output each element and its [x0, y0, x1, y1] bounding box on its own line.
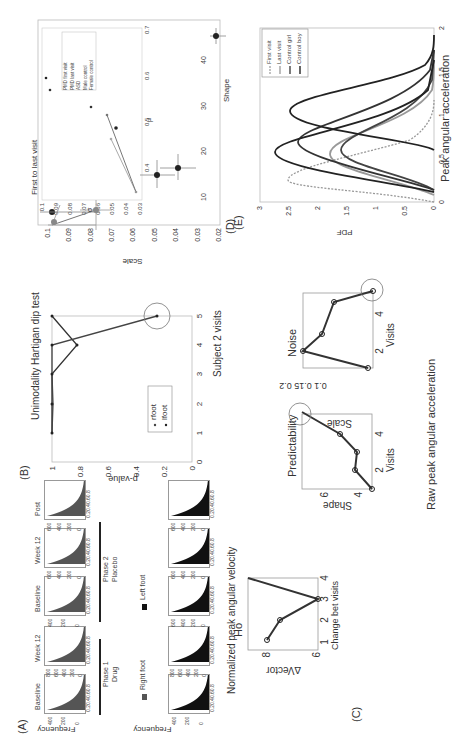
histogram-xticks: 0.20.40.60.8 [85, 490, 91, 518]
svg-text:0.1: 0.1 [39, 202, 45, 211]
phase2-name: Phase 2 [102, 556, 109, 582]
svg-text:1.5: 1.5 [343, 206, 350, 216]
histogram-title: Baseline [34, 585, 41, 612]
histogram-title: Week 12 [34, 537, 41, 565]
noise-ylabel: Scale [327, 418, 352, 429]
svg-text:1: 1 [372, 206, 379, 210]
svg-text:0.03: 0.03 [137, 202, 143, 214]
histogram-yticks: 4002000 [168, 717, 208, 725]
histogram-yticks: 6004002000 [168, 571, 208, 579]
svg-text:2: 2 [374, 348, 385, 354]
svg-text:4: 4 [353, 492, 364, 498]
svg-text:1: 1 [48, 465, 57, 470]
svg-text:6: 6 [319, 492, 330, 498]
histogram [44, 626, 86, 666]
histogram [168, 674, 210, 714]
panel-e-xlabel: Peak angular acceleration [439, 55, 451, 182]
svg-text:2: 2 [374, 467, 385, 473]
legend-control-girl: Control girl [284, 33, 294, 64]
phase2-bar [99, 522, 101, 622]
panel-d-chart: 0.02 0.03 0.04 0.05 0.06 0.07 0.08 0.09 … [0, 0, 230, 250]
histogram-title: Baseline [34, 683, 41, 710]
panel-b-legend-lfoot: lfoot [160, 405, 169, 420]
svg-text:0: 0 [438, 200, 445, 204]
histogram-xticks: 0.20.40.60.8 [85, 684, 91, 712]
svg-text:0.08: 0.08 [67, 202, 73, 214]
histogram-yticks: 6004002000 [44, 571, 84, 579]
panel-b-ylabel: p-value [108, 474, 138, 484]
phase1-sub: Drug [111, 667, 118, 682]
svg-text:0: 0 [195, 459, 204, 464]
svg-text:3: 3 [256, 206, 263, 210]
histogram [44, 528, 86, 568]
svg-text:4: 4 [374, 431, 385, 437]
histogram [44, 576, 86, 616]
panel-a-ylabel-top: Frequency [38, 725, 76, 734]
phase1-bar [99, 639, 101, 715]
svg-text:3: 3 [319, 596, 330, 602]
panel-e-chart: 0 0.5 1 1.5 2 2.5 3 0 0.5 1 1.5 2 [220, 0, 454, 250]
tick: 0.7 [144, 26, 150, 34]
legend-swatch-right-foot [142, 694, 147, 700]
panel-a-ylabel-bottom: Frequency [134, 725, 172, 734]
histogram-xticks: 0.20.40.60.8 [85, 586, 91, 614]
svg-text:8: 8 [261, 652, 272, 658]
histogram [168, 576, 210, 616]
pred-title: Predictability [286, 415, 298, 477]
histogram [168, 480, 210, 520]
panel-c-noise-chart: 24 [220, 242, 454, 382]
svg-text:4: 4 [319, 575, 330, 581]
noise-title: Noise [286, 329, 298, 357]
histogram-xticks: 0.20.40.60.8 [209, 490, 215, 518]
legend-last-visit: Last visit [274, 33, 284, 64]
svg-text:0.03: 0.03 [194, 228, 201, 242]
panel-e-ylabel: PDF [337, 228, 353, 237]
legend-first-visit: First visit [264, 33, 274, 64]
svg-text:4: 4 [195, 342, 204, 347]
histogram-title: Week 12 [34, 635, 41, 663]
figure-landscape: (A) Frequency Frequency 40020000.20.40.6… [0, 0, 454, 742]
svg-text:0.07: 0.07 [108, 228, 115, 242]
panel-d-ylabel: Scale [122, 257, 142, 266]
histogram [44, 480, 86, 520]
tick: 10 [200, 193, 207, 201]
histogram-xticks: 0.20.40.60.8 [85, 538, 91, 566]
ho-title: Ho [232, 623, 244, 637]
svg-text:0.1: 0.1 [44, 228, 51, 238]
panel-d-inset-ylabel: σ [86, 208, 93, 212]
svg-text:0.5: 0.5 [401, 206, 408, 216]
histogram-xticks: 0.20.40.60.8 [209, 586, 215, 614]
histogram [44, 674, 86, 714]
svg-text:1: 1 [195, 430, 204, 435]
inset-legend-item: Female control [89, 30, 96, 90]
histogram [168, 626, 210, 666]
svg-text:2.5: 2.5 [285, 206, 292, 216]
svg-text:0.05: 0.05 [151, 228, 158, 242]
svg-text:6: 6 [311, 652, 322, 658]
pred-xlabel: Visits [385, 448, 396, 472]
histogram-yticks: 6004002000 [44, 523, 84, 531]
noise-xlabel: Visits [385, 323, 396, 347]
svg-text:3: 3 [195, 371, 204, 376]
svg-text:2: 2 [438, 26, 445, 30]
panel-d-inset-title: First to last visit [30, 140, 39, 195]
histogram-xticks: 0.20.40.60.8 [85, 636, 91, 664]
legend-label-left-foot: Left foot [139, 575, 146, 600]
histogram-yticks: 6004002000 [168, 619, 208, 627]
svg-text:0.8: 0.8 [76, 465, 85, 477]
tick: 0.5 [144, 118, 150, 126]
phase1-name: Phase 1 [102, 661, 109, 687]
svg-text:2: 2 [195, 401, 204, 406]
legend-swatch-left-foot [142, 604, 147, 610]
tick: 40 [200, 56, 207, 64]
svg-text:0.08: 0.08 [87, 228, 94, 242]
tick: 20 [200, 147, 207, 155]
ho-xlabel: Change bet visits [330, 581, 340, 650]
tick: 0.6 [144, 72, 150, 80]
histogram-yticks: 4002000 [44, 717, 84, 725]
histogram-xticks: 0.20.40.60.8 [209, 538, 215, 566]
legend-control-boy: Control boy [294, 33, 304, 64]
ho-ylabel: ∆Vector [266, 665, 300, 676]
panel-b-legend-rfoot: rfoot [149, 404, 158, 420]
svg-text:4: 4 [374, 311, 385, 317]
